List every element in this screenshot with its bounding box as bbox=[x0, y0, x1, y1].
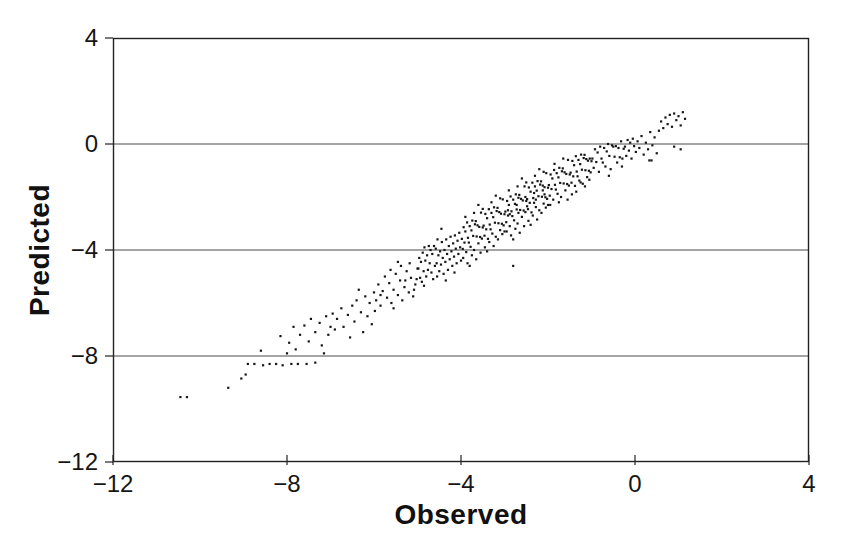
data-point bbox=[436, 262, 438, 264]
data-point bbox=[426, 254, 428, 256]
data-point bbox=[671, 126, 673, 128]
data-point bbox=[608, 175, 610, 177]
data-point bbox=[445, 279, 447, 281]
data-point bbox=[583, 154, 585, 156]
plot-area bbox=[113, 38, 809, 462]
data-point bbox=[466, 262, 468, 264]
data-point bbox=[543, 193, 545, 195]
data-point bbox=[650, 159, 652, 161]
data-point bbox=[537, 195, 539, 197]
data-point bbox=[584, 169, 586, 171]
data-point bbox=[604, 165, 606, 167]
data-point bbox=[564, 189, 566, 191]
data-point bbox=[559, 182, 561, 184]
data-point bbox=[532, 197, 534, 199]
data-point bbox=[490, 212, 492, 214]
data-point bbox=[535, 199, 537, 201]
data-point bbox=[382, 290, 384, 292]
data-point bbox=[321, 344, 323, 346]
data-point bbox=[353, 320, 355, 322]
data-point bbox=[522, 199, 524, 201]
data-point bbox=[503, 224, 505, 226]
data-point bbox=[682, 111, 684, 113]
data-point bbox=[610, 168, 612, 170]
data-point bbox=[362, 331, 364, 333]
data-point bbox=[543, 171, 545, 173]
data-point bbox=[275, 363, 277, 365]
data-point bbox=[460, 260, 462, 262]
data-point bbox=[462, 257, 464, 259]
data-point bbox=[658, 130, 660, 132]
data-point bbox=[472, 235, 474, 237]
x-axis-tick-label: −8 bbox=[273, 471, 300, 497]
data-point bbox=[499, 197, 501, 199]
data-point bbox=[323, 352, 325, 354]
data-point bbox=[186, 396, 188, 398]
data-point bbox=[534, 175, 536, 177]
data-point bbox=[469, 246, 471, 248]
data-point bbox=[540, 180, 542, 182]
plot-canvas bbox=[113, 38, 809, 462]
data-point bbox=[489, 228, 491, 230]
data-point bbox=[358, 289, 360, 291]
data-point bbox=[260, 350, 262, 352]
data-point bbox=[621, 157, 623, 159]
y-axis-title: Predicted bbox=[24, 184, 56, 316]
data-point bbox=[467, 237, 469, 239]
data-point bbox=[444, 261, 446, 263]
data-point bbox=[240, 377, 242, 379]
data-point bbox=[575, 191, 577, 193]
data-point bbox=[419, 277, 421, 279]
data-point bbox=[516, 208, 518, 210]
data-point bbox=[533, 202, 535, 204]
data-point bbox=[245, 373, 247, 375]
data-point bbox=[399, 279, 401, 281]
data-point bbox=[469, 265, 471, 267]
data-point bbox=[528, 186, 530, 188]
data-point bbox=[629, 142, 631, 144]
data-point bbox=[314, 362, 316, 364]
data-point bbox=[501, 233, 503, 235]
data-point bbox=[388, 282, 390, 284]
data-point bbox=[574, 185, 576, 187]
data-point bbox=[395, 273, 397, 275]
data-point bbox=[253, 363, 255, 365]
data-point bbox=[680, 124, 682, 126]
data-point bbox=[623, 148, 625, 150]
data-point bbox=[516, 185, 518, 187]
data-point bbox=[510, 210, 512, 212]
data-point bbox=[436, 275, 438, 277]
data-point bbox=[451, 265, 453, 267]
data-point bbox=[584, 185, 586, 187]
data-point bbox=[590, 171, 592, 173]
data-point bbox=[371, 323, 373, 325]
data-point bbox=[425, 275, 427, 277]
data-point bbox=[336, 318, 338, 320]
data-point bbox=[581, 169, 583, 171]
data-point bbox=[548, 184, 550, 186]
data-point bbox=[600, 157, 602, 159]
data-point bbox=[423, 285, 425, 287]
data-point bbox=[494, 222, 496, 224]
data-point bbox=[496, 207, 498, 209]
data-point bbox=[432, 278, 434, 280]
data-point bbox=[662, 127, 664, 129]
data-point bbox=[373, 291, 375, 293]
data-point bbox=[509, 213, 511, 215]
data-point bbox=[463, 241, 465, 243]
data-point bbox=[508, 204, 510, 206]
data-point bbox=[356, 299, 358, 301]
data-point bbox=[446, 253, 448, 255]
data-point bbox=[488, 208, 490, 210]
data-point bbox=[484, 213, 486, 215]
data-point bbox=[514, 228, 516, 230]
data-point bbox=[457, 253, 459, 255]
data-point bbox=[624, 146, 626, 148]
data-point bbox=[408, 291, 410, 293]
data-point bbox=[536, 190, 538, 192]
data-point bbox=[290, 363, 292, 365]
data-point bbox=[530, 224, 532, 226]
data-point bbox=[571, 193, 573, 195]
data-point bbox=[508, 189, 510, 191]
data-point bbox=[524, 196, 526, 198]
